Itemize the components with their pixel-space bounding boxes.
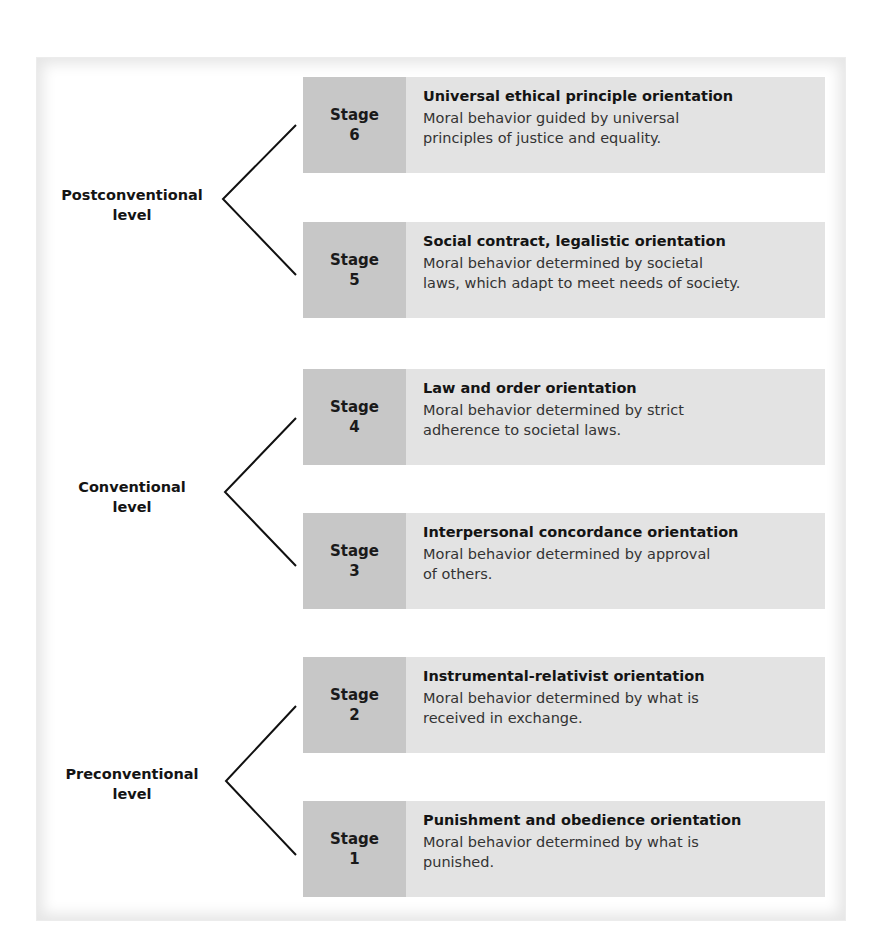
level-label-conventional: Conventional level <box>37 477 227 517</box>
stage-description-line1: Moral behavior determined by what is <box>423 688 815 708</box>
stage-description-line2: received in exchange. <box>423 708 815 728</box>
stage-text-cell: Punishment and obedience orientation Mor… <box>406 801 825 897</box>
stage-number: 1 <box>349 849 359 869</box>
stage-label: Stage <box>330 685 379 705</box>
stage-description: Moral behavior determined by what is pun… <box>423 832 815 872</box>
level-label-line2: level <box>37 205 227 225</box>
stage-text-cell: Interpersonal concordance orientation Mo… <box>406 513 825 609</box>
stage-description-line1: Moral behavior guided by universal <box>423 108 815 128</box>
stage-label: Stage <box>330 397 379 417</box>
stage-description: Moral behavior determined by societal la… <box>423 253 815 293</box>
stage-box-4: Stage 4 Law and order orientation Moral … <box>303 369 825 465</box>
stage-number-cell: Stage 2 <box>303 657 406 753</box>
stage-box-2: Stage 2 Instrumental-relativist orientat… <box>303 657 825 753</box>
stage-description-line2: principles of justice and equality. <box>423 128 815 148</box>
stage-box-3: Stage 3 Interpersonal concordance orient… <box>303 513 825 609</box>
stage-description-line1: Moral behavior determined by approval <box>423 544 815 564</box>
stage-number-cell: Stage 1 <box>303 801 406 897</box>
stage-description-line1: Moral behavior determined by strict <box>423 400 815 420</box>
stage-description: Moral behavior determined by what is rec… <box>423 688 815 728</box>
stage-box-5: Stage 5 Social contract, legalistic orie… <box>303 222 825 318</box>
stage-number-cell: Stage 6 <box>303 77 406 173</box>
stage-description-line2: punished. <box>423 852 815 872</box>
stage-number: 6 <box>349 125 359 145</box>
stage-text-cell: Universal ethical principle orientation … <box>406 77 825 173</box>
stage-box-1: Stage 1 Punishment and obedience orienta… <box>303 801 825 897</box>
stage-label: Stage <box>330 829 379 849</box>
level-label-line1: Preconventional <box>37 764 227 784</box>
stage-label: Stage <box>330 541 379 561</box>
stage-description-line2: laws, which adapt to meet needs of socie… <box>423 273 815 293</box>
stage-title: Social contract, legalistic orientation <box>423 231 815 251</box>
stage-label: Stage <box>330 250 379 270</box>
stage-description: Moral behavior determined by strict adhe… <box>423 400 815 440</box>
stage-title: Instrumental-relativist orientation <box>423 666 815 686</box>
stage-number: 3 <box>349 561 359 581</box>
stage-text-cell: Instrumental-relativist orientation Mora… <box>406 657 825 753</box>
level-label-preconventional: Preconventional level <box>37 764 227 804</box>
stage-box-6: Stage 6 Universal ethical principle orie… <box>303 77 825 173</box>
level-label-postconventional: Postconventional level <box>37 185 227 225</box>
stage-label: Stage <box>330 105 379 125</box>
stage-description-line2: of others. <box>423 564 815 584</box>
stage-description-line2: adherence to societal laws. <box>423 420 815 440</box>
stage-number-cell: Stage 4 <box>303 369 406 465</box>
stage-number-cell: Stage 5 <box>303 222 406 318</box>
stage-description-line1: Moral behavior determined by societal <box>423 253 815 273</box>
stage-title: Punishment and obedience orientation <box>423 810 815 830</box>
stage-description-line1: Moral behavior determined by what is <box>423 832 815 852</box>
level-label-line1: Conventional <box>37 477 227 497</box>
stage-text-cell: Law and order orientation Moral behavior… <box>406 369 825 465</box>
stage-title: Universal ethical principle orientation <box>423 86 815 106</box>
stage-title: Interpersonal concordance orientation <box>423 522 815 542</box>
stage-text-cell: Social contract, legalistic orientation … <box>406 222 825 318</box>
stage-description: Moral behavior determined by approval of… <box>423 544 815 584</box>
level-label-line1: Postconventional <box>37 185 227 205</box>
stage-number: 4 <box>349 417 359 437</box>
level-label-line2: level <box>37 497 227 517</box>
stage-title: Law and order orientation <box>423 378 815 398</box>
stage-number-cell: Stage 3 <box>303 513 406 609</box>
stage-number: 2 <box>349 705 359 725</box>
level-label-line2: level <box>37 784 227 804</box>
stage-number: 5 <box>349 270 359 290</box>
stage-description: Moral behavior guided by universal princ… <box>423 108 815 148</box>
